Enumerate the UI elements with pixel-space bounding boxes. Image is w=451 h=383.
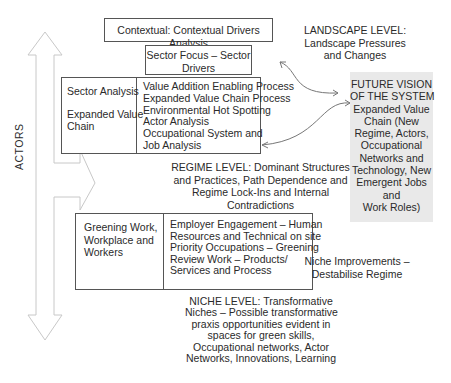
sector-analysis-right: Value Addition Enabling Process Expanded… <box>137 78 260 153</box>
regime-line: Regime Lock-Ins and Internal <box>168 186 353 199</box>
sector-analysis-box: Sector Analysis Expanded Value Chain Val… <box>61 77 261 154</box>
future-vision-line: Regime, Actors, <box>350 127 433 139</box>
future-vision-line: Expanded Value <box>350 103 433 115</box>
actors-label: ACTORS <box>13 123 25 170</box>
sector-analysis-left-line <box>67 98 131 108</box>
future-vision-line: Chain (New <box>350 115 433 127</box>
future-vision-line: Occupational <box>350 139 433 151</box>
future-vision-line: Networks and <box>350 152 433 164</box>
niche-improvements-line: Destabilise Regime <box>302 268 412 281</box>
future-vision-line: OF THE SYSTEM <box>350 90 433 102</box>
sector-focus-line: Drivers <box>146 62 251 75</box>
sector-focus-box: Sector Focus – Sector Drivers <box>145 45 252 75</box>
future-vision-line: Work Roles) <box>350 201 433 213</box>
sector-analysis-item: Job Analysis <box>143 140 254 152</box>
regime-line: REGIME LEVEL: Dominant Structures <box>168 161 353 174</box>
future-vision-box: FUTURE VISION OF THE SYSTEM Expanded Val… <box>350 72 433 222</box>
landscape-level-label: LANDSCAPE LEVEL: Landscape Pressures and… <box>300 24 410 62</box>
greening-left-line: Greening Work, <box>84 221 155 234</box>
landscape-line: and Changes <box>300 49 410 62</box>
regime-line: and Practices, Path Dependence and <box>168 174 353 187</box>
niche-improvements-line: Niche Improvements – <box>302 255 412 268</box>
actors-text: ACTORS <box>13 123 25 170</box>
greening-left: Greening Work, Workplace and Workers <box>76 214 164 289</box>
sector-analysis-left-line: Expanded Value <box>67 108 131 121</box>
greening-left-line: Workers <box>84 246 155 259</box>
sector-analysis-left: Sector Analysis Expanded Value Chain <box>62 78 137 153</box>
regime-level-label: REGIME LEVEL: Dominant Structures and Pr… <box>168 161 353 211</box>
future-vision-line: and <box>350 189 433 201</box>
niche-line: spaces for green skills, <box>185 330 337 341</box>
regime-line: Contradictions <box>168 199 353 212</box>
future-vision-line: FUTURE VISION <box>350 78 433 90</box>
greening-work-box: Greening Work, Workplace and Workers Emp… <box>75 213 313 290</box>
contextual-drivers-box: Contextual: Contextual Drivers Analysis <box>104 18 273 42</box>
future-vision-line: Technology, New <box>350 164 433 176</box>
sector-analysis-left-line: Chain <box>67 120 131 133</box>
niche-line: Networks, Innovations, Learning <box>185 353 337 364</box>
landscape-line: LANDSCAPE LEVEL: <box>300 24 410 37</box>
niche-improvements-label: Niche Improvements – Destabilise Regime <box>302 255 412 280</box>
sector-analysis-left-line: Sector Analysis <box>67 85 131 98</box>
future-vision-line: Emergent Jobs <box>350 176 433 188</box>
greening-left-line: Workplace and <box>84 234 155 247</box>
niche-level-label: NICHE LEVEL: Transformative Niches – Pos… <box>185 296 337 364</box>
landscape-line: Landscape Pressures <box>300 37 410 50</box>
sector-focus-line: Sector Focus – Sector <box>146 49 251 62</box>
greening-item: Employer Engagement – Human <box>170 219 306 231</box>
greening-right: Employer Engagement – Human Resources an… <box>164 214 312 289</box>
greening-item: Services and Process <box>170 265 306 277</box>
sector-analysis-item: Expanded Value Chain Process <box>143 93 254 105</box>
